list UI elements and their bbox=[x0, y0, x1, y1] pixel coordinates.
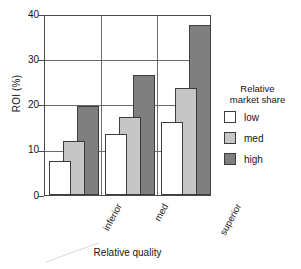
y-tick-label-0: 0 bbox=[21, 191, 39, 201]
legend-label-med: med bbox=[244, 133, 263, 144]
x-axis-title: Relative quality bbox=[44, 247, 211, 258]
y-tick-label-30: 30 bbox=[21, 55, 39, 65]
y-tick-mark-0 bbox=[38, 196, 44, 197]
legend-item-high: high bbox=[224, 153, 301, 165]
legend-title: Relative market share bbox=[218, 83, 301, 105]
med-swatch-icon bbox=[224, 132, 236, 144]
y-tick-label-40: 40 bbox=[21, 10, 39, 20]
legend-title-line2: market share bbox=[218, 94, 297, 105]
x-tick-label-med: med bbox=[153, 202, 171, 223]
bar-med-low bbox=[105, 134, 127, 195]
legend-label-high: high bbox=[244, 154, 263, 165]
plot-inner bbox=[45, 16, 210, 195]
legend-item-low: low bbox=[224, 111, 301, 123]
gridline-x-1 bbox=[101, 16, 102, 195]
y-axis-tick-labels: 40 30 20 10 0 bbox=[19, 0, 39, 269]
legend: Relative market share low med high bbox=[218, 83, 301, 174]
gridline-x-2 bbox=[157, 16, 158, 195]
x-tick-label-inferior: inferior bbox=[101, 202, 123, 232]
bar-chart-figure: ROI (%) 40 30 20 10 0 bbox=[0, 0, 301, 269]
legend-item-med: med bbox=[224, 132, 301, 144]
gridline-y-30 bbox=[45, 60, 210, 61]
legend-label-low: low bbox=[244, 112, 259, 123]
y-tick-label-20: 20 bbox=[21, 100, 39, 110]
bar-inferior-low bbox=[49, 161, 71, 195]
high-swatch-icon bbox=[224, 153, 236, 165]
low-swatch-icon bbox=[224, 111, 236, 123]
bar-superior-low bbox=[161, 122, 183, 195]
x-tick-label-superior: superior bbox=[218, 202, 243, 237]
y-tick-label-10: 10 bbox=[21, 145, 39, 155]
plot-area bbox=[44, 15, 211, 196]
legend-title-line1: Relative bbox=[218, 83, 297, 94]
